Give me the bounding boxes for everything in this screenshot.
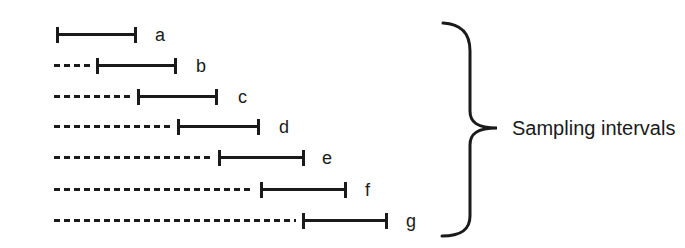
brace-annotation: Sampling intervals bbox=[512, 116, 675, 140]
interval-bar-b bbox=[96, 58, 177, 74]
interval-bar-e bbox=[218, 150, 305, 166]
dashed-lead-line-f bbox=[54, 188, 254, 191]
interval-bar-d bbox=[177, 119, 260, 135]
dashed-lead-line-c bbox=[54, 95, 131, 98]
interval-label-e: e bbox=[322, 146, 332, 170]
interval-label-g: g bbox=[406, 209, 416, 233]
interval-label-f: f bbox=[365, 178, 370, 202]
interval-label-b: b bbox=[196, 54, 206, 78]
interval-label-a: a bbox=[155, 23, 165, 47]
interval-bar-g bbox=[302, 213, 388, 229]
curly-brace-icon bbox=[435, 18, 505, 242]
interval-bar-c bbox=[137, 89, 218, 105]
dashed-lead-line-b bbox=[54, 64, 90, 67]
interval-bar-f bbox=[260, 182, 347, 198]
interval-label-d: d bbox=[279, 115, 289, 139]
dashed-lead-line-d bbox=[54, 125, 171, 128]
dashed-lead-line-e bbox=[54, 156, 212, 159]
interval-bar-a bbox=[56, 27, 137, 43]
dashed-lead-line-g bbox=[54, 219, 296, 222]
sampling-intervals-diagram: a b c d e f g Sampling intervals bbox=[0, 0, 685, 248]
interval-label-c: c bbox=[238, 85, 247, 109]
